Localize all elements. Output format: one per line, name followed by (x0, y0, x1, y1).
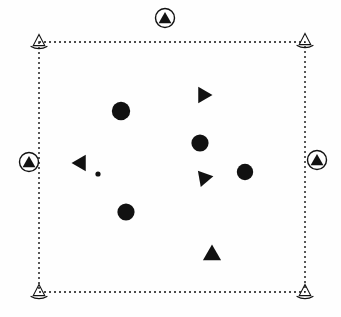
diagram-canvas: Marker Layout Diagram (0, 0, 341, 317)
marker-scatter-svg (0, 0, 341, 317)
marker-badge-top (156, 9, 175, 28)
marker-circle-5-small (95, 171, 100, 176)
marker-circle-2 (191, 134, 208, 151)
marker-circle-3 (237, 164, 253, 180)
marker-badge-left (20, 153, 39, 172)
canvas-background (0, 0, 341, 317)
marker-circle-1 (112, 102, 130, 120)
marker-badge-right (308, 151, 327, 170)
marker-circle-4 (117, 203, 134, 220)
